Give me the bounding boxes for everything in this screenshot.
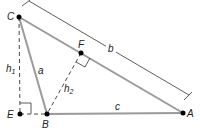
label-h2: h2: [64, 83, 74, 95]
label-side-c: c: [115, 101, 120, 112]
side-c: [47, 113, 183, 114]
point-a: [181, 111, 186, 116]
label-e: E: [7, 109, 14, 120]
side-b: [19, 17, 183, 113]
point-e: [18, 112, 23, 117]
label-a: A: [186, 108, 194, 119]
label-f: F: [78, 39, 85, 50]
triangle-diagram: C A B E F a b c h1 h2: [0, 0, 200, 134]
point-b: [45, 112, 50, 117]
altitude-h1: [19, 17, 20, 114]
point-c: [17, 15, 22, 20]
label-side-a: a: [38, 65, 44, 76]
right-angle-f: [76, 58, 90, 67]
label-side-b: b: [108, 43, 114, 54]
label-c: C: [7, 11, 15, 22]
label-b: B: [42, 119, 49, 130]
point-f: [79, 51, 84, 56]
label-h1: h1: [6, 63, 16, 75]
